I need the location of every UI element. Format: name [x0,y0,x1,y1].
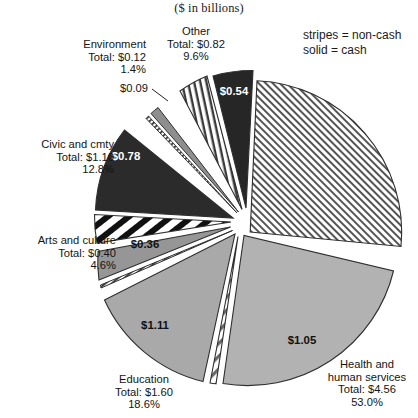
callout-health-percent: 53.0% [316,396,418,409]
callout-arts-total: Total: $0.40 [0,247,116,260]
callout-arts-name: Arts and culture [0,234,116,247]
slice-health-non-cash[interactable] [250,81,401,247]
callout-environment-percent: 1.4% [28,63,146,76]
leader-line-environment [152,89,168,101]
callout-education-total: Total: $1.60 [88,386,200,399]
callout-environment-value: $0.09 [68,82,148,95]
callout-arts-percent: 4.6% [0,259,116,272]
callout-health-name-line1: Health and [316,358,418,371]
callout-other-name: Other [140,25,252,38]
callout-other: Other Total: $0.82 9.6% [140,25,252,63]
callout-environment-total: Total: $0.12 [28,51,146,64]
slice-value-health-cash: $1.05 [288,334,317,346]
callout-health-total: Total: $4.56 [316,383,418,396]
slice-value-environment-cash: $0.09 [68,82,148,95]
callout-arts: Arts and culture Total: $0.40 4.6% [0,234,116,272]
callout-civic-total: Total: $1.10 [2,151,114,164]
callout-other-total: Total: $0.82 [140,38,252,51]
callout-environment-name: Environment [28,38,146,51]
slice-value-civic-cash: $0.78 [112,150,141,162]
pie-chart-figure: ($ in billions) stripes = non-cash solid… [0,0,418,418]
callout-education-percent: 18.6% [88,398,200,411]
callout-education-name: Education [88,373,200,386]
callout-civic-name: Civic and cmty [2,138,114,151]
slice-value-arts-cash: $0.36 [131,238,160,250]
slice-value-education-cash: $1.11 [141,319,170,331]
slice-value-other-cash: $0.54 [220,85,249,97]
callout-civic-percent: 12.8% [2,163,114,176]
callout-civic: Civic and cmty Total: $1.10 12.8% [2,138,114,176]
callout-other-percent: 9.6% [140,50,252,63]
callout-environment: Environment Total: $0.12 1.4% [28,38,146,76]
callout-health-name-line2: human services [316,371,418,384]
callout-education: Education Total: $1.60 18.6% [88,373,200,411]
callout-health: Health and human services Total: $4.56 5… [316,358,418,408]
